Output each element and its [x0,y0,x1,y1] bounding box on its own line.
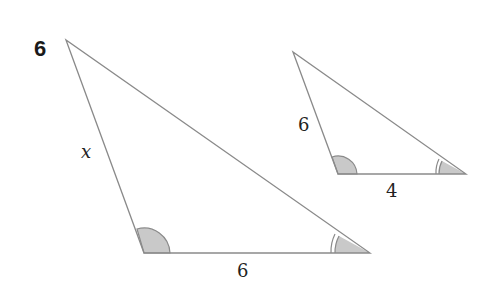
single-angle-mark-icon [332,156,357,174]
large-side-bottom-label: 6 [237,260,248,281]
similar-triangles-diagram: 6 x 6 6 4 [0,0,483,284]
question-number: 6 [34,36,46,61]
double-angle-mark-icon [439,161,466,174]
large-triangle: x 6 [66,40,370,281]
double-angle-mark-icon [335,236,370,253]
small-side-bottom-label: 4 [386,180,397,201]
large-side-x-label: x [81,141,91,162]
small-side-left-label: 6 [298,114,309,135]
large-triangle-outline [66,40,370,253]
small-triangle: 6 4 [293,52,466,201]
small-triangle-outline [293,52,466,174]
diagram-svg: 6 x 6 6 4 [0,0,483,284]
